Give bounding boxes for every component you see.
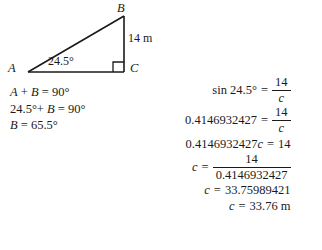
row4-rhs: 14 0.4146932427 bbox=[213, 153, 291, 182]
side-length-label: 14 m bbox=[128, 32, 152, 44]
angle-eq1-equals: = bbox=[42, 85, 49, 99]
row6-rhs: 33.76 m bbox=[250, 199, 291, 214]
row1-numerator: 14 bbox=[272, 76, 291, 89]
row2-numerator: 14 bbox=[272, 106, 291, 119]
vertex-label-C: C bbox=[130, 62, 138, 75]
fraction-14-over-c-2: 14 c bbox=[272, 106, 291, 135]
row5-equals: = bbox=[210, 183, 225, 198]
angle-eq1-plus: + bbox=[21, 85, 28, 99]
row3-coefficient: 0.4146932427 bbox=[186, 137, 258, 151]
angle-equation-line-3: B = 65.5° bbox=[10, 117, 86, 134]
angle-eq2-b: B bbox=[47, 102, 55, 116]
row4-equals: = bbox=[198, 160, 213, 175]
final-steps-group: c = 14 0.4146932427 c = 33.75989421 c = … bbox=[192, 153, 291, 214]
row6-equals: = bbox=[234, 199, 249, 214]
vertex-label-B: B bbox=[117, 2, 125, 15]
solution-row-1: sin 24.5° = 14 c bbox=[152, 76, 291, 105]
row1-lhs: sin 24.5° bbox=[212, 83, 257, 98]
solution-row-6: c = 33.76 m bbox=[192, 199, 291, 214]
row2-equals: = bbox=[257, 113, 272, 128]
angle-eq2-value: 90° bbox=[68, 102, 86, 116]
row2-denominator: c bbox=[275, 122, 287, 135]
sine-solution-work: sin 24.5° = 14 c 0.4146932427 = 14 c 0.4… bbox=[152, 76, 291, 215]
vertex-label-A: A bbox=[8, 62, 16, 75]
row2-lhs: 0.4146932427 bbox=[185, 113, 257, 128]
angle-eq3-value: 65.5° bbox=[31, 118, 58, 132]
right-angle-marker-icon bbox=[113, 62, 124, 72]
row4-numerator: 14 bbox=[242, 153, 261, 166]
angle-sum-work: A + B = 90° 24.5°+ B = 90° B = 65.5° bbox=[10, 84, 86, 134]
angle-eq1-b: B bbox=[31, 85, 39, 99]
row3-equals: = bbox=[263, 137, 278, 152]
row1-denominator: c bbox=[275, 92, 287, 105]
row4-denominator: 0.4146932427 bbox=[213, 169, 291, 182]
solution-row-4: c = 14 0.4146932427 bbox=[192, 153, 291, 182]
fraction-14-over-decimal: 14 0.4146932427 bbox=[213, 153, 291, 182]
angle-eq1-a: A bbox=[10, 85, 18, 99]
angle-eq2-equals: = bbox=[58, 102, 65, 116]
solution-row-5: c = 33.75989421 bbox=[192, 183, 291, 198]
triangle-figure: B A C 14 m 24.5° bbox=[0, 0, 175, 85]
triangle-side-hypotenuse-AB bbox=[28, 16, 124, 72]
row3-rhs: 14 bbox=[278, 137, 291, 152]
angle-eq2-a: 24.5°+ bbox=[10, 102, 44, 116]
fraction-14-over-c: 14 c bbox=[272, 76, 291, 105]
row5-rhs: 33.75989421 bbox=[225, 183, 291, 198]
angle-equation-line-1: A + B = 90° bbox=[10, 84, 86, 101]
row1-equals: = bbox=[257, 83, 272, 98]
angle-equation-line-2: 24.5°+ B = 90° bbox=[10, 101, 86, 118]
angle-eq3-b: B bbox=[10, 118, 18, 132]
angle-measure-label: 24.5° bbox=[48, 55, 74, 67]
solution-row-2: 0.4146932427 = 14 c bbox=[152, 106, 291, 135]
row2-rhs: 14 c bbox=[272, 106, 291, 135]
angle-eq3-equals: = bbox=[21, 118, 28, 132]
row1-rhs: 14 c bbox=[272, 76, 291, 105]
row3-lhs: 0.4146932427c bbox=[186, 137, 263, 152]
angle-eq1-value: 90° bbox=[52, 85, 70, 99]
solution-row-3: 0.4146932427c = 14 bbox=[152, 137, 291, 152]
